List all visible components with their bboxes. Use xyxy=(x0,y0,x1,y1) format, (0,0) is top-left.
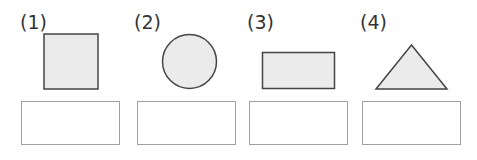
rectangle-shape xyxy=(263,53,335,89)
answer-box-4[interactable] xyxy=(362,101,461,145)
answer-box-2[interactable] xyxy=(137,101,236,145)
answer-box-3[interactable] xyxy=(249,101,348,145)
square-shape xyxy=(44,34,98,89)
circle-shape xyxy=(163,35,217,89)
answer-box-1[interactable] xyxy=(21,101,120,145)
triangle-shape xyxy=(376,45,447,89)
